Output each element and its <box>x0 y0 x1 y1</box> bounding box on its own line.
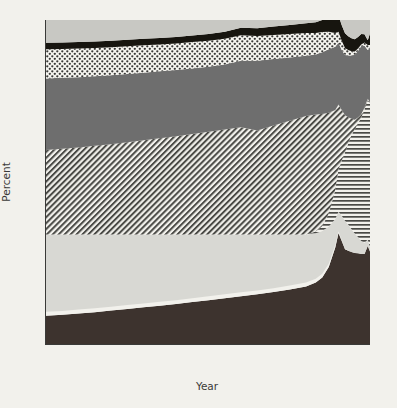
x-tick-major <box>176 344 177 345</box>
y-tick-major <box>45 20 46 21</box>
x-tick-minor <box>339 344 340 345</box>
y-tick-major <box>45 85 46 86</box>
y-tick-major <box>45 150 46 151</box>
x-tick-minor <box>144 344 145 345</box>
stacked-area-chart-figure: 10080604020 100012001400160018002000 Per… <box>0 0 397 408</box>
y-axis-title: Percent <box>0 162 12 202</box>
x-axis-title: Year <box>196 380 218 392</box>
x-tick-major <box>241 344 242 345</box>
x-tick-major <box>306 344 307 345</box>
x-tick-minor <box>209 344 210 345</box>
x-tick-major <box>46 344 47 345</box>
stacked-bands <box>46 20 370 345</box>
y-tick-minor <box>45 183 46 184</box>
y-tick-minor <box>45 313 46 314</box>
plot-svg <box>46 20 370 345</box>
y-tick-minor <box>45 248 46 249</box>
x-tick-minor <box>274 344 275 345</box>
y-tick-major <box>45 280 46 281</box>
plot-area: 10080604020 100012001400160018002000 <box>45 20 370 345</box>
y-tick-minor <box>45 118 46 119</box>
y-tick-major <box>45 215 46 216</box>
x-tick-major <box>111 344 112 345</box>
y-tick-minor <box>45 53 46 54</box>
x-tick-minor <box>79 344 80 345</box>
